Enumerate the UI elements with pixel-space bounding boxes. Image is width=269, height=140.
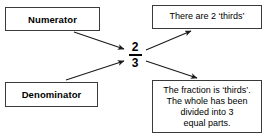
there-are-2-thirds-box: There are 2 ‘thirds’ [152,5,262,29]
arrow-fraction-to-there-are-2-thirds [146,31,191,50]
center-fraction: 2 3 [126,40,144,70]
diagram-canvas: Numerator Denominator There are 2 ‘third… [0,0,269,140]
arrow-numerator-to-fraction [74,32,124,49]
explanation-line-4: equal parts. [183,118,230,129]
arrow-fraction-to-explanation [146,61,197,78]
there-are-2-thirds-text: There are 2 ‘thirds’ [169,11,244,22]
fraction-numerator: 2 [132,41,139,53]
explanation-line-2: The whole has been [166,96,247,107]
denominator-label-box: Denominator [5,82,98,107]
denominator-label-text: Denominator [22,89,82,100]
fraction-explanation-box: The fraction is ‘thirds’. The whole has … [152,80,262,133]
explanation-line-1: The fraction is ‘thirds’. [163,85,251,96]
fraction-denominator: 3 [132,57,139,69]
explanation-line-3: divided into 3 [180,107,233,118]
numerator-label-text: Numerator [28,14,77,25]
numerator-label-box: Numerator [5,7,100,31]
arrow-denominator-to-fraction [66,61,124,80]
